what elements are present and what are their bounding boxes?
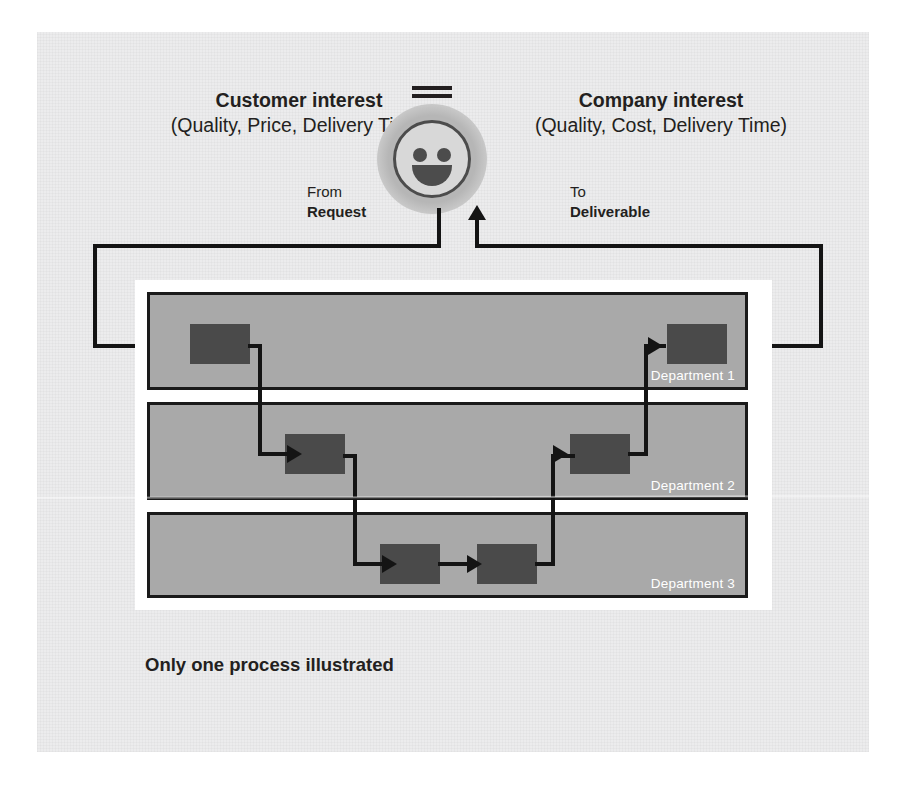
department-3-label: Department 3 xyxy=(651,576,735,591)
to-label: To xyxy=(570,182,650,202)
department-3: Department 3 xyxy=(147,512,748,598)
smiley-circle xyxy=(393,120,471,198)
connector-into-d2s1 xyxy=(258,452,290,456)
arrow-into-smiley xyxy=(468,205,486,220)
to-value: Deliverable xyxy=(570,202,650,222)
diagram-canvas: Customer interest (Quality, Price, Deliv… xyxy=(37,32,869,752)
department-2-label: Department 2 xyxy=(651,478,735,493)
smiley-eye-right xyxy=(437,148,451,162)
connector-d2s2-to-d1s2-vertical xyxy=(644,344,648,454)
diagram-root: Customer interest (Quality, Price, Deliv… xyxy=(0,0,909,786)
node-dept1-step1 xyxy=(190,324,250,364)
smiley-eye-left xyxy=(413,148,427,162)
connector-d2s1-to-d3s1-vertical xyxy=(353,454,357,564)
smiley-mouth xyxy=(412,165,452,186)
connector-into-d3s1 xyxy=(353,562,385,566)
arrow-into-dept3-box1 xyxy=(382,555,397,573)
node-dept2-step2 xyxy=(570,434,630,474)
connector-left-vertical xyxy=(93,244,97,348)
department-2: Department 2 xyxy=(147,402,748,500)
diagram-caption: Only one process illustrated xyxy=(145,654,394,676)
to-endpoint: To Deliverable xyxy=(570,182,650,221)
arrow-into-dept3-box2 xyxy=(467,555,482,573)
arrow-into-dept2-box2 xyxy=(553,445,568,463)
equals-icon xyxy=(412,86,452,102)
connector-top-right-horizontal xyxy=(475,244,823,248)
node-dept1-step2 xyxy=(667,324,727,364)
arrow-into-dept1-box2 xyxy=(648,337,663,355)
from-value: Request xyxy=(307,202,366,222)
connector-d1s1-to-d2s1-vertical xyxy=(258,344,262,454)
from-endpoint: From Request xyxy=(307,182,366,221)
connector-top-left-horizontal xyxy=(93,244,441,248)
connector-d3s1-to-d3s2 xyxy=(438,562,470,566)
company-interest-heading: Company interest (Quality, Cost, Deliver… xyxy=(529,88,793,139)
smiley-face-icon xyxy=(377,104,487,214)
node-dept3-step2 xyxy=(477,544,537,584)
department-1-label: Department 1 xyxy=(651,368,735,383)
arrow-into-dept2-box1 xyxy=(287,445,302,463)
from-label: From xyxy=(307,182,366,202)
connector-right-vertical xyxy=(819,244,823,348)
connector-smiley-up-right xyxy=(475,218,479,248)
connector-smiley-down-left xyxy=(437,208,441,248)
connector-d3s2-to-d2s2-vertical xyxy=(551,454,555,564)
company-interest-subtitle: (Quality, Cost, Delivery Time) xyxy=(529,113,793,138)
company-interest-title: Company interest xyxy=(529,88,793,113)
